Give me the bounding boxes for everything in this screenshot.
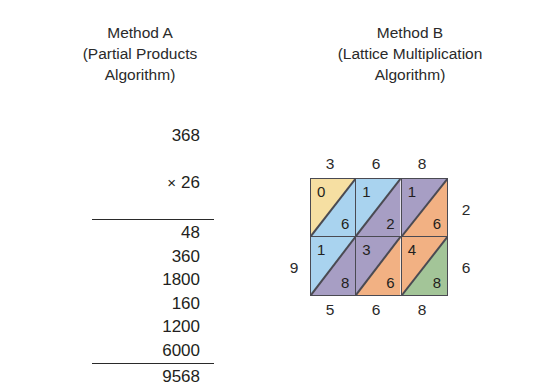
lattice-right-label-0: 2 xyxy=(456,202,476,218)
cell-ones-digit: 6 xyxy=(433,216,441,231)
cell-ones-digit: 8 xyxy=(341,275,349,290)
lattice-grid: 0 6 1 2 1 6 xyxy=(310,178,448,296)
cell-tens-digit: 1 xyxy=(362,184,370,199)
cell-tens-digit: 0 xyxy=(317,184,325,199)
partial-products-work: 368 ×26 48 360 1800 160 1200 6000 9568 xyxy=(92,124,214,386)
multiplicand-row: 368 xyxy=(92,124,214,148)
lattice-cell: 1 8 xyxy=(311,237,356,295)
multiplier-row: ×26 xyxy=(92,148,214,221)
lattice-top-label-0: 3 xyxy=(320,156,340,172)
cell-tens-digit: 4 xyxy=(408,242,416,257)
lattice-cell: 1 2 xyxy=(356,179,401,237)
cell-tens-digit: 1 xyxy=(408,184,416,199)
cell-ones-digit: 6 xyxy=(386,275,394,290)
method-a-title-line1: Method A xyxy=(22,22,258,43)
cell-ones-digit: 2 xyxy=(386,216,394,231)
lattice-top-label-2: 8 xyxy=(412,156,432,172)
partial-product-row: 6000 xyxy=(92,339,214,365)
partial-product-row: 160 xyxy=(92,292,214,316)
multiplier-value: 26 xyxy=(181,173,200,192)
method-b-title: Method B (Lattice Multiplication Algorit… xyxy=(290,22,530,85)
lattice-top-label-1: 6 xyxy=(366,156,386,172)
method-b-title-line2: (Lattice Multiplication xyxy=(290,43,530,64)
lattice-bottom-label-2: 8 xyxy=(412,302,432,318)
method-a-title-line3: Algorithm) xyxy=(22,64,258,85)
lattice-cell: 4 8 xyxy=(402,237,447,295)
cell-ones-digit: 8 xyxy=(433,275,441,290)
partial-product-row: 1800 xyxy=(92,268,214,292)
multiplication-sign: × xyxy=(167,171,176,195)
cell-tens-digit: 3 xyxy=(362,242,370,257)
lattice-cell: 0 6 xyxy=(311,179,356,237)
final-product-row: 9568 xyxy=(92,365,214,386)
cell-tens-digit: 1 xyxy=(317,242,325,257)
lattice-left-label: 9 xyxy=(284,260,304,276)
lattice-bottom-label-1: 6 xyxy=(366,302,386,318)
lattice-cell: 3 6 xyxy=(356,237,401,295)
method-b-title-line3: Algorithm) xyxy=(290,64,530,85)
method-a-title: Method A (Partial Products Algorithm) xyxy=(22,22,258,85)
lattice-diagram: 3 6 8 5 6 8 9 2 6 0 6 xyxy=(278,144,528,324)
lattice-right-label-1: 6 xyxy=(456,260,476,276)
cell-ones-digit: 6 xyxy=(341,216,349,231)
lattice-bottom-label-0: 5 xyxy=(320,302,340,318)
partial-product-row: 48 xyxy=(92,221,214,245)
method-b-title-line1: Method B xyxy=(290,22,530,43)
method-a-title-line2: (Partial Products xyxy=(22,43,258,64)
partial-product-row: 360 xyxy=(92,245,214,269)
partial-product-row: 1200 xyxy=(92,315,214,339)
lattice-cell: 1 6 xyxy=(402,179,447,237)
